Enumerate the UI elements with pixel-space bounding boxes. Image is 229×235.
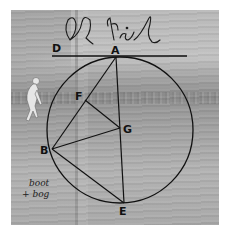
segment-bg — [52, 128, 120, 149]
person-figure — [26, 78, 42, 122]
geometry-overlay: D A F G B E boot + bog — [0, 0, 229, 235]
label-b: B — [40, 144, 48, 157]
label-d: D — [52, 42, 61, 55]
handwritten-note-line-2: + bog — [22, 189, 50, 199]
signature — [66, 17, 160, 44]
segments — [52, 57, 124, 203]
label-e: E — [119, 205, 127, 218]
label-f: F — [75, 90, 83, 103]
label-a: A — [111, 44, 120, 57]
segment-fg — [85, 100, 120, 128]
handwritten-note-line-1: boot — [29, 178, 50, 188]
label-g: G — [123, 123, 132, 136]
segment-ab — [52, 57, 116, 149]
